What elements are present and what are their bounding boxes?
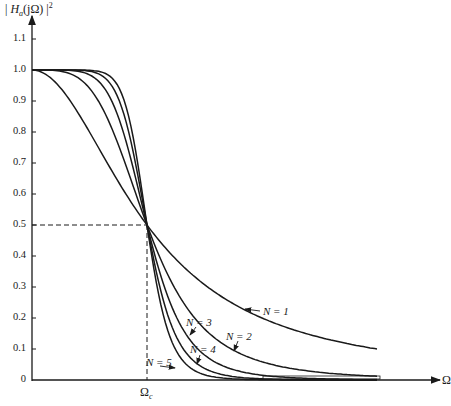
y-tick-label: 0.2 <box>0 312 26 323</box>
y-tick-label: 0.4 <box>0 250 26 261</box>
omega-c-sub: c <box>149 392 153 401</box>
y-tick-label: 0.1 <box>0 343 26 354</box>
arrow-n3 <box>190 327 196 335</box>
x-axis-title: Ω <box>442 374 451 386</box>
y-tick-label: 1.1 <box>0 33 26 44</box>
label-n3: N = 3 <box>186 317 212 328</box>
chart-figure: 00.10.20.30.40.50.60.70.80.91.01.1 | Ha(… <box>0 0 451 406</box>
y-tick-label: 0.8 <box>0 126 26 137</box>
y-tick-label: 0.6 <box>0 188 26 199</box>
y-title-h: H <box>10 2 19 16</box>
y-title-sup: 2 <box>49 1 53 10</box>
label-n4: N = 4 <box>190 344 216 355</box>
plot-area <box>0 0 451 406</box>
y-tick-label: 0.3 <box>0 281 26 292</box>
y-title-arg: (jΩ) <box>23 2 43 16</box>
y-tick-label: 0 <box>0 374 26 385</box>
arrow-n4 <box>197 355 200 364</box>
y-title-bar: | <box>5 2 7 16</box>
curve-n1 <box>32 70 377 349</box>
label-n5: N = 5 <box>146 357 172 368</box>
curve-n2 <box>32 70 377 376</box>
y-tick-label: 0.7 <box>0 157 26 168</box>
y-tick-label: 0.5 <box>0 219 26 230</box>
arrow-n2 <box>234 341 238 351</box>
label-n2: N = 2 <box>226 331 252 342</box>
y-axis-title: | Ha(jΩ) |2 <box>5 2 53 18</box>
y-tick-label: 0.9 <box>0 95 26 106</box>
omega-c-main: Ω <box>140 385 149 399</box>
y-tick-label: 1.0 <box>0 64 26 75</box>
omega-c-label: Ωc <box>140 386 152 401</box>
label-n1: N = 1 <box>263 306 289 317</box>
